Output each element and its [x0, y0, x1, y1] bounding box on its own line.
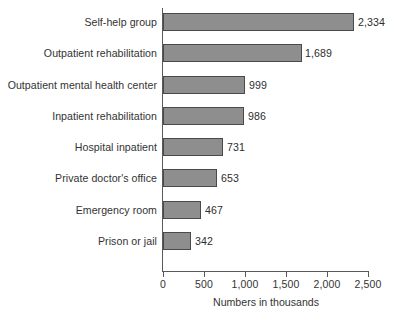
bar-value-label: 731 — [227, 141, 245, 153]
category-label: Inpatient rehabilitation — [52, 110, 157, 122]
x-axis-line — [162, 271, 369, 272]
x-axis-tick — [286, 272, 287, 277]
x-axis-tick — [245, 272, 246, 277]
bar — [163, 76, 245, 94]
category-label: Emergency room — [76, 204, 157, 216]
bar — [163, 44, 302, 62]
chart-row: Emergency room 467 — [0, 201, 400, 219]
x-axis-title: Numbers in thousands — [163, 296, 369, 308]
x-axis-tick — [327, 272, 328, 277]
chart-row: Inpatient rehabilitation 986 — [0, 107, 400, 125]
chart-row: Prison or jail 342 — [0, 232, 400, 250]
bar — [163, 232, 191, 250]
bar-value-label: 2,334 — [358, 16, 385, 28]
x-axis-tick-label: 1,000 — [232, 278, 259, 290]
category-label: Self-help group — [84, 16, 157, 28]
y-axis-line — [162, 8, 163, 272]
bar-chart: Self-help group 2,334 Outpatient rehabil… — [0, 0, 400, 319]
bar — [163, 13, 354, 31]
x-axis-tick-label: 2,500 — [355, 278, 382, 290]
bar-value-label: 1,689 — [305, 47, 332, 59]
chart-row: Self-help group 2,334 — [0, 13, 400, 31]
category-label: Private doctor's office — [55, 172, 157, 184]
x-axis-tick — [204, 272, 205, 277]
category-label: Outpatient rehabilitation — [44, 47, 157, 59]
bar — [163, 169, 217, 187]
chart-row: Outpatient mental health center 999 — [0, 76, 400, 94]
x-axis-tick-label: 500 — [195, 278, 213, 290]
bar — [163, 107, 244, 125]
bar-value-label: 986 — [248, 110, 266, 122]
chart-row: Outpatient rehabilitation 1,689 — [0, 44, 400, 62]
x-axis-tick — [163, 272, 164, 277]
bar-value-label: 653 — [221, 172, 239, 184]
chart-row: Private doctor's office 653 — [0, 169, 400, 187]
bar — [163, 201, 201, 219]
x-axis-tick — [368, 272, 369, 277]
bar — [163, 138, 223, 156]
bar-value-label: 342 — [195, 235, 213, 247]
bar-value-label: 467 — [205, 204, 223, 216]
x-axis-tick-label: 1,500 — [273, 278, 300, 290]
x-axis-tick-label: 2,000 — [314, 278, 341, 290]
category-label: Prison or jail — [98, 235, 157, 247]
category-label: Hospital inpatient — [75, 141, 157, 153]
bar-value-label: 999 — [249, 79, 267, 91]
plot-area: Self-help group 2,334 Outpatient rehabil… — [0, 0, 400, 319]
x-axis-tick-label: 0 — [160, 278, 166, 290]
chart-row: Hospital inpatient 731 — [0, 138, 400, 156]
category-label: Outpatient mental health center — [8, 79, 157, 91]
